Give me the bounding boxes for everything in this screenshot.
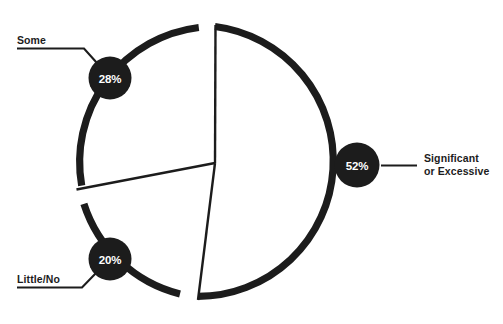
pie-arc-significant-or-excessive[interactable]: [198, 27, 333, 297]
label-significant-line2: or Excessive: [424, 165, 489, 177]
label-significant-line1: Significant: [424, 152, 479, 164]
badge-little-no-value: 20%: [99, 254, 121, 266]
leader-line-some: [17, 49, 97, 64]
badge-significant-or-excessive[interactable]: 52%: [335, 143, 380, 188]
pie-arc-some[interactable]: [80, 28, 199, 186]
pie-chart-svg: 28% 20% 52% Some Little/No Significant o…: [0, 0, 503, 324]
pie-divider-left: [77, 163, 216, 190]
label-little-no: Little/No: [17, 273, 60, 285]
badge-some[interactable]: 28%: [89, 57, 132, 100]
pie-divider-top: [215, 25, 216, 163]
badge-significant-value: 52%: [346, 160, 368, 172]
pie-chart: 28% 20% 52% Some Little/No Significant o…: [0, 0, 503, 324]
pie-divider-lower-left: [198, 163, 215, 300]
badge-some-value: 28%: [99, 73, 121, 85]
label-some: Some: [17, 34, 46, 46]
badge-little-no[interactable]: 20%: [89, 238, 132, 281]
